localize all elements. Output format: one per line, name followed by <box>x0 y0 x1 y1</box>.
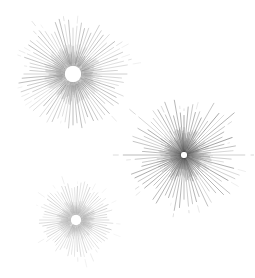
starburst-svg <box>0 0 255 278</box>
figure-canvas <box>0 0 255 278</box>
starburst-hub <box>65 66 81 82</box>
starburst-hub <box>181 152 187 158</box>
starburst-hub <box>71 215 81 225</box>
